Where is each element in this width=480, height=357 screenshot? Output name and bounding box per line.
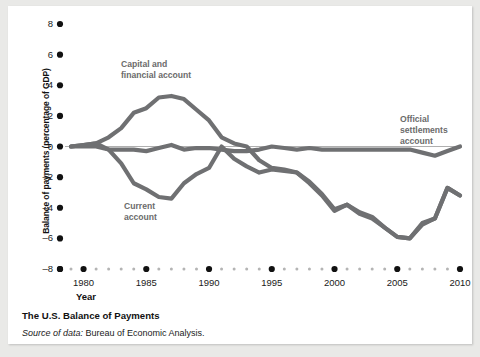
source-rest: Bureau of Economic Analysis. <box>83 328 205 338</box>
source-lead: Source of data: <box>22 328 83 338</box>
y-tick-label: 2 <box>27 110 53 121</box>
y-tick-label: 8 <box>27 18 53 29</box>
x-tick-label: 1985 <box>124 277 168 288</box>
chart-plot-area: Balance of payments (percentage of GDP) … <box>8 6 472 296</box>
figure-root: Balance of payments (percentage of GDP) … <box>0 0 480 357</box>
y-tick-label: –4 <box>27 202 53 213</box>
y-tick-label: –6 <box>27 232 53 243</box>
x-tick-label: 1990 <box>187 277 231 288</box>
y-tick-label: –2 <box>27 171 53 182</box>
x-tick-label: 1980 <box>62 277 106 288</box>
x-tick-label: 2005 <box>375 277 419 288</box>
figure-card: Balance of payments (percentage of GDP) … <box>8 6 472 344</box>
y-tick-label: 0 <box>27 141 53 152</box>
series-label-capital-and-financial-account: Capital and financial account <box>121 59 191 81</box>
figure-caption-title: The U.S. Balance of Payments <box>22 310 160 321</box>
figure-source-note: Source of data: Bureau of Economic Analy… <box>22 328 205 338</box>
y-tick-label: 6 <box>27 49 53 60</box>
y-tick-label: 4 <box>27 79 53 90</box>
y-tick-label: –8 <box>27 263 53 274</box>
series-label-official-settlements-account: Official settlements account <box>400 114 448 147</box>
series-line-1 <box>71 143 460 238</box>
x-tick-label: 2010 <box>438 277 480 288</box>
chart-canvas <box>8 6 472 296</box>
x-axis-title: Year <box>60 291 112 302</box>
series-label-current-account: Current account <box>124 201 157 223</box>
x-tick-label: 2000 <box>313 277 357 288</box>
x-tick-label: 1995 <box>250 277 294 288</box>
